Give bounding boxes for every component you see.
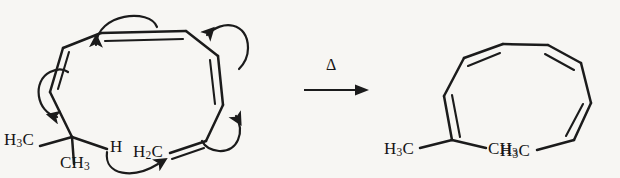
- reactant-methylene-label: H2C: [133, 143, 163, 162]
- product-skeleton: [420, 44, 591, 150]
- reaction-diagram: H3C CH3 H H2C Δ H3C CH3 H3C: [0, 0, 620, 178]
- reactant-skeleton: [40, 31, 223, 164]
- arrow-top-right-icon: [207, 25, 248, 69]
- delta-heat-symbol: Δ: [326, 57, 336, 73]
- reaction-arrow-icon: [304, 85, 369, 96]
- product-methyl-left-label: H3C: [384, 140, 414, 159]
- reactant-methyl-bottom-label: CH3: [60, 154, 90, 173]
- reactant-hydrogen-label: H: [110, 138, 122, 155]
- reactant-methyl-left-label: H3C: [4, 131, 34, 150]
- product-methyl-terminal-label: H3C: [500, 142, 530, 161]
- arrow-bottom-right-icon: [202, 116, 240, 151]
